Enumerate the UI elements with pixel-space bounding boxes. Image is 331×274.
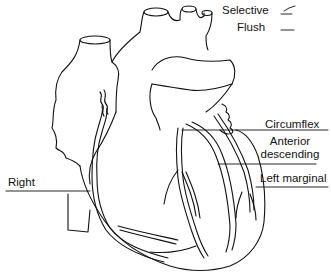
- legend-flush-label: Flush: [237, 21, 265, 33]
- label-left-marginal: Left marginal: [260, 172, 326, 184]
- right-atrium-outline: [52, 36, 119, 166]
- label-anterior-descending-1: Anterior: [254, 135, 326, 147]
- label-circumflex: Circumflex: [265, 118, 319, 130]
- aorta-outline: [112, 6, 212, 62]
- checkmark-line-icon: [281, 6, 295, 14]
- legend-selective-label: Selective: [222, 4, 269, 16]
- right-coronary-artery: [92, 90, 196, 262]
- label-right: Right: [8, 176, 35, 188]
- label-anterior-descending-2: descending: [254, 148, 326, 160]
